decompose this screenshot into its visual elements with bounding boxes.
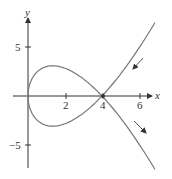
y-tick-label-neg5: −5: [9, 139, 21, 151]
x-tick-label-2: 2: [63, 99, 69, 111]
direction-arrow-lower: [134, 121, 146, 133]
crossing-point: [101, 94, 105, 98]
x-tick-label-4: 4: [100, 99, 106, 111]
y-tick-label-5: 5: [15, 41, 21, 53]
parametric-plot: y x 2 4 6 5 −5: [0, 0, 172, 179]
x-axis-label: x: [154, 89, 160, 101]
y-axis-label: y: [24, 6, 30, 18]
x-tick-label-6: 6: [137, 99, 143, 111]
direction-arrow-upper: [133, 58, 143, 69]
